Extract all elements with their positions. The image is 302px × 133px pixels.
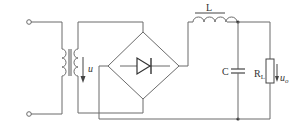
load-resistor: RL — [238, 22, 274, 119]
secondary-voltage-arrow: u — [81, 57, 94, 83]
wire-negative-rail — [99, 66, 238, 119]
input-terminal-bottom — [27, 112, 62, 117]
load-resistor-label: RL — [254, 68, 265, 81]
bridge-rectifier — [108, 32, 179, 99]
circuit-diagram: u L C RL uo — [0, 0, 302, 133]
wire-positive — [179, 22, 193, 66]
input-terminal-top — [27, 20, 62, 25]
inductor: L — [193, 2, 238, 22]
output-voltage-arrow: uo — [275, 64, 289, 85]
secondary-voltage-label: u — [88, 63, 93, 74]
capacitor: C — [222, 22, 245, 119]
wire-secondary-bottom — [78, 99, 143, 113]
capacitor-label: C — [222, 66, 229, 77]
output-voltage-label: uo — [280, 72, 289, 85]
wire-secondary-top — [78, 22, 143, 32]
inductor-label: L — [206, 2, 212, 13]
transformer — [62, 22, 78, 114]
